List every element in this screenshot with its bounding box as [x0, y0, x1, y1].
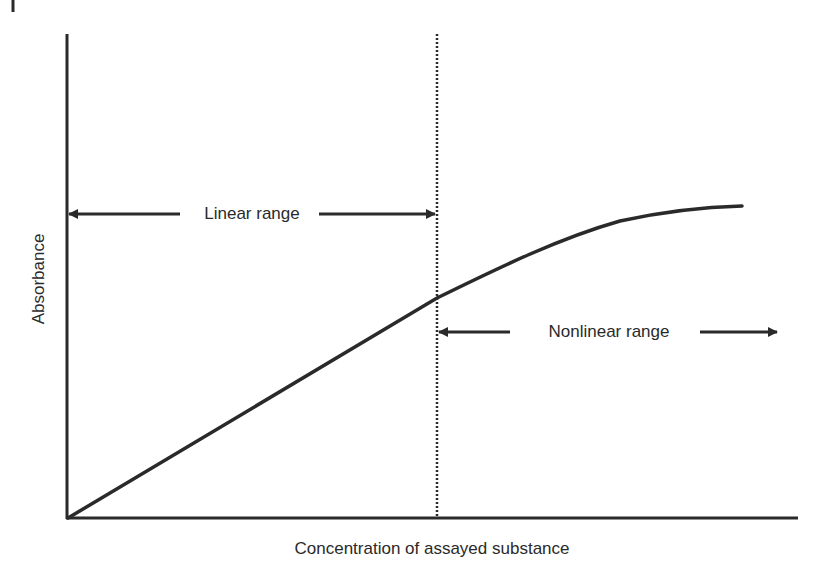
absorbance-curve — [68, 206, 742, 518]
x-axis-label: Concentration of assayed substance — [294, 540, 569, 557]
nonlinear-range-label: Nonlinear range — [549, 323, 670, 340]
diagram-canvas — [0, 0, 829, 582]
y-axis-label: Absorbance — [30, 234, 47, 325]
linear-range-label: Linear range — [204, 205, 299, 222]
